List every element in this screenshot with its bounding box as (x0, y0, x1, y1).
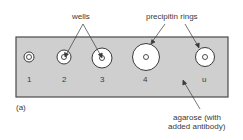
well-hole (144, 55, 149, 60)
well-2 (57, 50, 71, 64)
well-label-3: 3 (100, 75, 104, 84)
agarose-caption-line2: added antibody) (168, 122, 225, 131)
well-label-4: 4 (143, 75, 147, 84)
agarose-caption-line1: agarose (with (173, 113, 221, 122)
precipitin-rings-caption: precipitin rings (146, 12, 198, 21)
wells-caption: wells (72, 12, 90, 21)
well-u (196, 48, 215, 67)
well-4 (133, 44, 160, 71)
well-hole (203, 55, 208, 60)
well-label-1: 1 (27, 75, 31, 84)
well-label-2: 2 (62, 75, 66, 84)
panel-label: (a) (16, 103, 26, 112)
well-1 (24, 52, 34, 62)
well-hole (27, 55, 32, 60)
agarose-gel (16, 37, 228, 97)
well-label-u: u (202, 75, 206, 84)
